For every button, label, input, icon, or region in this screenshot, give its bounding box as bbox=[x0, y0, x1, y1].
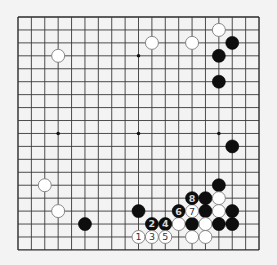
black-stone-circle bbox=[186, 218, 199, 231]
black-stone bbox=[212, 75, 225, 88]
white-stone bbox=[186, 36, 199, 49]
star-point bbox=[217, 132, 221, 136]
white-stone bbox=[212, 192, 225, 205]
black-stone-circle bbox=[226, 36, 239, 49]
black-stone bbox=[212, 179, 225, 192]
star-point bbox=[137, 132, 141, 136]
black-stone-circle bbox=[226, 140, 239, 153]
black-stone-circle bbox=[78, 218, 91, 231]
white-stone-move-7: 7 bbox=[186, 205, 199, 218]
black-stone bbox=[132, 205, 145, 218]
black-stone-circle bbox=[199, 205, 212, 218]
star-point bbox=[137, 54, 141, 58]
black-stone bbox=[226, 218, 239, 231]
move-number-label: 2 bbox=[149, 218, 156, 229]
white-stone-circle bbox=[199, 230, 212, 243]
move-number-label: 7 bbox=[189, 206, 195, 217]
black-stone-circle bbox=[212, 75, 225, 88]
white-stone-circle bbox=[199, 218, 212, 231]
white-stone-circle bbox=[52, 205, 65, 218]
black-stone bbox=[226, 36, 239, 49]
black-stone-move-6: 6 bbox=[172, 205, 185, 218]
black-stone bbox=[199, 205, 212, 218]
star-point bbox=[56, 132, 60, 136]
white-stone-move-5: 5 bbox=[159, 230, 172, 243]
move-number-label: 3 bbox=[149, 231, 155, 242]
black-stone bbox=[78, 218, 91, 231]
black-stone-move-8: 8 bbox=[186, 192, 199, 205]
white-stone bbox=[172, 218, 185, 231]
black-stone-move-4: 4 bbox=[159, 218, 172, 231]
white-stone-circle bbox=[186, 230, 199, 243]
move-number-label: 6 bbox=[175, 206, 182, 217]
white-stone bbox=[212, 23, 225, 36]
white-stone bbox=[186, 230, 199, 243]
white-stone-move-1: 1 bbox=[132, 230, 145, 243]
black-stone bbox=[226, 205, 239, 218]
black-stone-circle bbox=[132, 205, 145, 218]
move-number-label: 4 bbox=[162, 218, 169, 229]
black-stone-circle bbox=[212, 179, 225, 192]
white-stone bbox=[145, 36, 158, 49]
white-stone-circle bbox=[212, 23, 225, 36]
white-stone-circle bbox=[186, 36, 199, 49]
black-stone bbox=[212, 49, 225, 62]
black-stone bbox=[186, 218, 199, 231]
white-stone bbox=[199, 230, 212, 243]
white-stone bbox=[212, 205, 225, 218]
black-stone-circle bbox=[226, 218, 239, 231]
black-stone-circle bbox=[199, 192, 212, 205]
white-stone bbox=[52, 205, 65, 218]
white-stone-circle bbox=[145, 36, 158, 49]
move-number-label: 5 bbox=[162, 231, 168, 242]
white-stone-move-3: 3 bbox=[145, 230, 158, 243]
go-board[interactable]: 12345678 bbox=[0, 0, 277, 265]
white-stone-circle bbox=[212, 205, 225, 218]
black-stone-circle bbox=[226, 205, 239, 218]
black-stone bbox=[226, 140, 239, 153]
white-stone bbox=[199, 218, 212, 231]
white-stone-circle bbox=[212, 192, 225, 205]
move-number-label: 8 bbox=[189, 193, 196, 204]
black-stone-circle bbox=[212, 218, 225, 231]
white-stone-circle bbox=[52, 49, 65, 62]
black-stone-circle bbox=[212, 49, 225, 62]
white-stone bbox=[38, 179, 51, 192]
white-stone-circle bbox=[172, 218, 185, 231]
black-stone bbox=[199, 192, 212, 205]
white-stone-circle bbox=[38, 179, 51, 192]
black-stone bbox=[212, 218, 225, 231]
move-number-label: 1 bbox=[135, 231, 141, 242]
black-stone-move-2: 2 bbox=[145, 218, 158, 231]
white-stone bbox=[52, 49, 65, 62]
